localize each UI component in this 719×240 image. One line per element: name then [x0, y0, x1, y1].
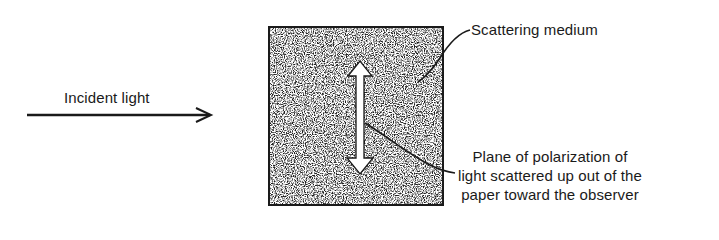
polarization-label: Plane of polarization of light scattered… [458, 147, 642, 204]
polarization-label-line-2: light scattered up out of the [458, 166, 642, 185]
polarization-label-line-3: paper toward the observer [458, 185, 642, 204]
incident-light-arrow-icon [27, 108, 211, 122]
polarization-label-line-1: Plane of polarization of [458, 147, 642, 166]
incident-light-label: Incident light [64, 88, 150, 107]
scattering-medium-label: Scattering medium [471, 20, 598, 39]
